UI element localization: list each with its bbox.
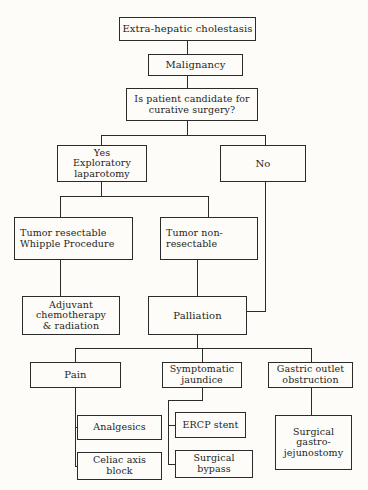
node-surgical-bypass-label: Surgical bypass: [193, 453, 234, 474]
node-malignancy[interactable]: Malignancy: [148, 54, 243, 76]
node-palliation[interactable]: Palliation: [148, 296, 247, 335]
node-curative-surgery-decision[interactable]: Is patient candidate for curative surger…: [126, 88, 258, 121]
node-no[interactable]: No: [220, 145, 306, 182]
connector-root-to-malignancy: [187, 41, 188, 54]
node-gastric-outlet-obstruction[interactable]: Gastric outlet obstruction: [268, 362, 353, 388]
node-yes-exploratory-laparotomy[interactable]: Yes Exploratory laparotomy: [57, 145, 147, 182]
node-ercp-stent[interactable]: ERCP stent: [175, 412, 246, 438]
node-symptomatic-jaundice-label: Symptomatic jaundice: [170, 364, 234, 385]
connector-bus-to-yes: [101, 135, 102, 145]
node-extra-hepatic-cholestasis[interactable]: Extra-hepatic cholestasis: [119, 17, 256, 41]
node-surgical-bypass[interactable]: Surgical bypass: [175, 450, 253, 478]
node-no-label: No: [256, 158, 271, 169]
connector-palliation-bus: [75, 348, 311, 349]
connector-jaundice-riser: [168, 400, 169, 465]
connector-bus-to-pain: [75, 348, 76, 362]
connector-no-stem: [265, 182, 266, 311]
node-surgical-gastrojejunostomy-label: Surgical gastro- jejunostomy: [284, 427, 343, 459]
node-analgesics[interactable]: Analgesics: [77, 415, 162, 440]
connector-jaundice-elbow: [168, 400, 203, 401]
node-pain[interactable]: Pain: [30, 362, 121, 388]
connector-decision-stem: [187, 121, 188, 135]
connector-bus-to-no: [265, 135, 266, 145]
node-analgesics-label: Analgesics: [93, 422, 146, 433]
node-gastric-outlet-obstruction-label: Gastric outlet obstruction: [277, 364, 344, 385]
node-celiac-axis-block-label: Celiac axis block: [93, 455, 146, 476]
connector-tumor-nonresectable-to-palliation: [197, 260, 198, 296]
connector-bus-to-jaundice: [202, 348, 203, 362]
node-adjuvant-chemotherapy-radiation[interactable]: Adjuvant chemotherapy & radiation: [22, 296, 120, 335]
node-extra-hepatic-cholestasis-label: Extra-hepatic cholestasis: [122, 23, 252, 34]
node-tumor-resectable-whipple[interactable]: Tumor resectable Whipple Procedure: [14, 217, 133, 260]
node-adjuvant-chemotherapy-radiation-label: Adjuvant chemotherapy & radiation: [36, 300, 106, 332]
node-malignancy-label: Malignancy: [165, 59, 225, 70]
connector-yes-bus: [60, 196, 209, 197]
connector-palliation-stem: [197, 335, 198, 348]
node-tumor-non-resectable[interactable]: Tumor non- resectable: [160, 217, 258, 260]
flowchart-canvas: Extra-hepatic cholestasis Malignancy Is …: [0, 0, 368, 490]
node-yes-exploratory-laparotomy-label: Yes Exploratory laparotomy: [73, 148, 131, 180]
connector-gastric-outlet-to-gastrojejunostomy: [311, 388, 312, 415]
node-tumor-non-resectable-label: Tumor non- resectable: [166, 228, 223, 249]
connector-decision-bus: [101, 135, 266, 136]
node-ercp-stent-label: ERCP stent: [182, 420, 238, 431]
connector-bus-to-tumor-nonresectable: [208, 196, 209, 217]
connector-no-to-palliation: [246, 311, 266, 312]
node-curative-surgery-decision-label: Is patient candidate for curative surger…: [134, 94, 249, 115]
connector-bus-to-tumor-resectable: [60, 196, 61, 217]
node-celiac-axis-block[interactable]: Celiac axis block: [77, 452, 162, 480]
node-pain-label: Pain: [64, 369, 86, 380]
node-surgical-gastrojejunostomy[interactable]: Surgical gastro- jejunostomy: [275, 415, 352, 470]
connector-yes-stem: [101, 182, 102, 196]
connector-malignancy-to-decision: [187, 76, 188, 88]
node-palliation-label: Palliation: [173, 310, 221, 321]
node-tumor-resectable-whipple-label: Tumor resectable Whipple Procedure: [20, 228, 114, 249]
connector-jaundice-stem: [202, 388, 203, 400]
node-symptomatic-jaundice[interactable]: Symptomatic jaundice: [162, 362, 242, 388]
connector-bus-to-gastric-outlet: [311, 348, 312, 362]
connector-tumor-resectable-to-adjuvant: [60, 260, 61, 296]
